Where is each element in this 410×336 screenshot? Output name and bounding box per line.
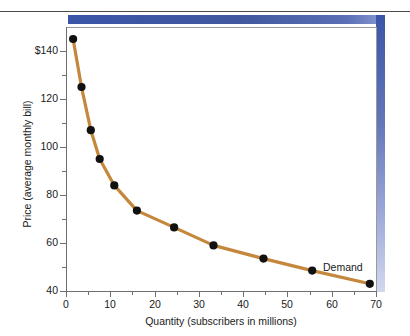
data-point-marker [133, 207, 141, 215]
data-point-marker [259, 255, 267, 263]
y-axis-title: Price (average monthly bill) [21, 49, 33, 279]
series-annotation-demand: Demand [323, 261, 363, 273]
data-point-marker [69, 35, 77, 43]
data-point-marker [209, 241, 217, 249]
demand-curve-line [73, 39, 370, 284]
chart-figure: 406080100120$140 010203040506070 Demand … [0, 0, 410, 336]
data-point-marker [170, 223, 178, 231]
data-point-marker [96, 155, 104, 163]
data-point-marker [308, 267, 316, 275]
demand-data-points [69, 35, 374, 288]
data-point-marker [87, 126, 95, 134]
data-point-marker [366, 280, 374, 288]
demand-curve-plot [0, 0, 410, 336]
data-point-marker [110, 181, 118, 189]
x-axis-title: Quantity (subscribers in millions) [66, 315, 376, 327]
data-point-marker [77, 83, 85, 91]
